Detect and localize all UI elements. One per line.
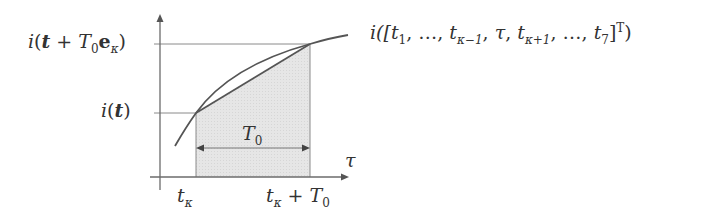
plus-sign: + [50,30,78,52]
func-name: i [28,30,34,52]
curve-label: i([t1, …, tκ−1, τ, tκ+1, …, t7]T) [370,22,632,46]
x-axis-label: τ [345,151,356,170]
y-axis-arrow-icon [157,14,164,22]
T-symbol: T [310,184,323,206]
tkp1-sub: κ+1 [525,33,551,47]
t-subscript: κ [185,196,193,210]
T-subscript: 0 [322,196,330,210]
x-tick-right: tκ + T0 [266,186,330,209]
shaded-area [196,44,310,177]
e-subscript: κ [111,42,119,56]
x-tick-left: tκ [177,186,193,209]
func-name: i [101,99,107,121]
tau: τ [495,21,506,43]
T-subscript: 0 [255,134,263,148]
t1: t [391,21,399,43]
sep: , …, [406,21,449,43]
t-kappa-minus-1: t [449,21,457,43]
plus-sign: + [282,184,310,206]
t-kappa-plus-1: t [517,21,525,43]
sep: , …, [550,21,593,43]
y-label-lower: i(t) [101,101,131,120]
T-symbol: T [242,122,255,144]
T-symbol: T [78,30,91,52]
unit-vector-e: e [99,30,111,52]
t-subscript: κ [274,196,282,210]
T-subscript: 0 [91,42,99,56]
t-symbol: t [177,184,185,206]
x-axis-arrow-icon [341,174,349,181]
t-symbol: t [266,184,274,206]
vector-t: t [42,30,51,52]
sep: , [483,21,495,43]
vector-t: t [115,99,124,121]
sep: , [505,21,517,43]
curve-label-prefix: i([ [370,21,391,43]
paren-close: ) [624,21,631,43]
y-label-upper: i(t + T0eκ) [28,32,126,55]
t7-sub: 7 [601,33,609,47]
tkm1-sub: κ−1 [457,33,483,47]
interval-label: T0 [242,124,262,147]
